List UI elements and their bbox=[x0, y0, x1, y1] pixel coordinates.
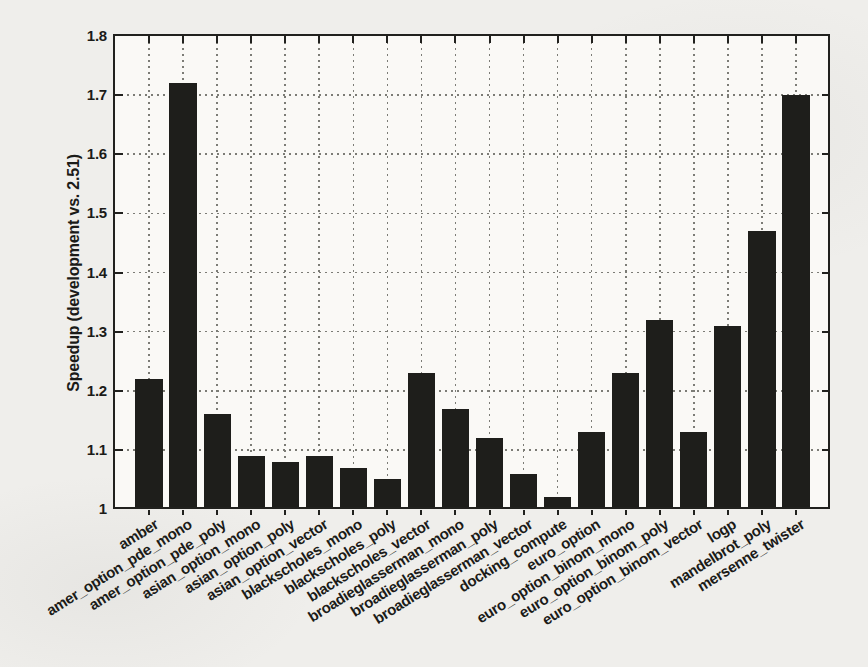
bar bbox=[680, 432, 707, 509]
x-tick-mark bbox=[284, 36, 286, 43]
gridline-horizontal bbox=[115, 94, 830, 96]
bar bbox=[510, 474, 537, 509]
y-tick-mark bbox=[115, 449, 123, 451]
x-tick-mark bbox=[761, 510, 763, 515]
bar bbox=[612, 373, 639, 509]
bar bbox=[169, 83, 196, 509]
y-tick-mark bbox=[115, 212, 123, 214]
bar bbox=[442, 409, 469, 510]
bar bbox=[135, 379, 162, 509]
x-tick-mark bbox=[659, 510, 661, 515]
x-tick-mark bbox=[318, 36, 320, 43]
gridline-vertical bbox=[557, 36, 559, 509]
x-tick-mark bbox=[557, 36, 559, 43]
y-tick-mark bbox=[115, 153, 123, 155]
bar bbox=[408, 373, 435, 509]
x-tick-mark bbox=[693, 510, 695, 515]
gridline-horizontal bbox=[115, 213, 830, 215]
x-tick-mark bbox=[216, 36, 218, 43]
bar bbox=[476, 438, 503, 509]
x-tick-mark bbox=[523, 36, 525, 43]
bar bbox=[544, 497, 571, 509]
y-tick-mark bbox=[822, 390, 830, 392]
x-tick-mark bbox=[795, 510, 797, 515]
y-tick-label: 1.6 bbox=[0, 145, 107, 163]
y-tick-mark bbox=[822, 331, 830, 333]
bar-chart-figure: Speedup (development vs. 2.51) 11.11.21.… bbox=[0, 0, 868, 667]
x-tick-mark bbox=[420, 36, 422, 43]
y-tick-mark bbox=[115, 94, 123, 96]
x-tick-mark bbox=[761, 36, 763, 43]
x-tick-mark bbox=[386, 510, 388, 515]
x-tick-mark bbox=[284, 510, 286, 515]
gridline-vertical bbox=[523, 36, 525, 509]
y-tick-label: 1.5 bbox=[0, 204, 107, 222]
y-tick-label: 1.2 bbox=[0, 382, 107, 400]
bar bbox=[374, 479, 401, 509]
y-tick-mark bbox=[115, 272, 123, 274]
x-tick-mark bbox=[489, 36, 491, 43]
bar bbox=[272, 462, 299, 509]
x-tick-mark bbox=[727, 510, 729, 515]
x-tick-mark bbox=[148, 36, 150, 43]
x-tick-mark bbox=[454, 510, 456, 515]
gridline-vertical bbox=[250, 36, 252, 509]
y-tick-mark bbox=[115, 331, 123, 333]
x-tick-mark bbox=[523, 510, 525, 515]
gridline-vertical bbox=[387, 36, 389, 509]
x-tick-mark bbox=[489, 510, 491, 515]
y-tick-mark bbox=[822, 153, 830, 155]
x-tick-mark bbox=[454, 36, 456, 43]
y-tick-label: 1.1 bbox=[0, 441, 107, 459]
bar bbox=[646, 320, 673, 509]
bar bbox=[204, 414, 231, 509]
x-tick-mark bbox=[659, 36, 661, 43]
y-tick-mark bbox=[822, 212, 830, 214]
y-tick-mark bbox=[115, 390, 123, 392]
bar bbox=[238, 456, 265, 509]
x-tick-mark bbox=[795, 36, 797, 43]
bar bbox=[782, 95, 809, 509]
bar bbox=[748, 231, 775, 509]
x-tick-mark bbox=[148, 510, 150, 515]
gridline-horizontal bbox=[115, 272, 830, 274]
bar bbox=[578, 432, 605, 509]
x-tick-mark bbox=[352, 36, 354, 43]
x-tick-mark bbox=[182, 510, 184, 515]
gridline-vertical bbox=[284, 36, 286, 509]
y-tick-mark bbox=[822, 94, 830, 96]
x-tick-mark bbox=[318, 510, 320, 515]
y-tick-mark bbox=[822, 272, 830, 274]
y-tick-label: 1.4 bbox=[0, 264, 107, 282]
y-tick-label: 1.7 bbox=[0, 86, 107, 104]
x-tick-mark bbox=[591, 36, 593, 43]
x-tick-mark bbox=[182, 36, 184, 43]
bar bbox=[714, 326, 741, 509]
bar bbox=[306, 456, 333, 509]
y-tick-label: 1.3 bbox=[0, 323, 107, 341]
x-tick-mark bbox=[625, 510, 627, 515]
y-tick-mark bbox=[822, 449, 830, 451]
y-tick-label: 1.8 bbox=[0, 27, 107, 45]
plot-area bbox=[115, 36, 830, 509]
x-tick-mark bbox=[591, 510, 593, 515]
x-tick-mark bbox=[250, 510, 252, 515]
x-tick-mark bbox=[250, 36, 252, 43]
x-tick-mark bbox=[557, 510, 559, 515]
gridline-vertical bbox=[318, 36, 320, 509]
x-tick-mark bbox=[693, 36, 695, 43]
x-tick-mark bbox=[352, 510, 354, 515]
x-tick-mark bbox=[386, 36, 388, 43]
y-tick-label: 1 bbox=[0, 500, 107, 518]
x-tick-mark bbox=[420, 510, 422, 515]
x-tick-mark bbox=[727, 36, 729, 43]
bar bbox=[340, 468, 367, 509]
x-tick-mark bbox=[216, 510, 218, 515]
x-tick-mark bbox=[625, 36, 627, 43]
gridline-vertical bbox=[353, 36, 355, 509]
gridline-horizontal bbox=[115, 153, 830, 155]
